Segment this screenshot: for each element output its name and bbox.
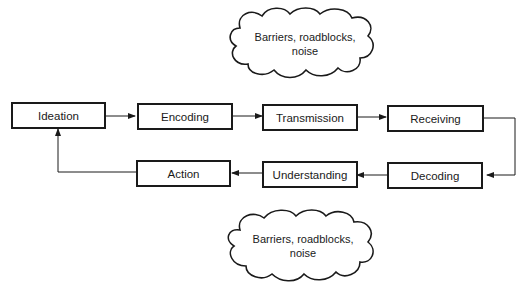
node-label: Transmission: [276, 112, 344, 124]
cloud-line-2: noise: [248, 246, 358, 260]
node-decoding: Decoding: [387, 162, 483, 189]
arrow-action-ideation: [58, 129, 136, 172]
node-label: Action: [168, 168, 200, 180]
node-label: Receiving: [410, 113, 461, 125]
node-encoding: Encoding: [137, 103, 233, 130]
node-transmission: Transmission: [262, 104, 358, 131]
cloud-line-2: noise: [250, 44, 360, 58]
node-label: Encoding: [161, 111, 209, 123]
node-action: Action: [136, 160, 231, 187]
node-label: Understanding: [273, 169, 348, 181]
node-receiving: Receiving: [387, 105, 484, 132]
cloud-text-top: Barriers, roadblocks, noise: [250, 30, 360, 58]
cloud-line-1: Barriers, roadblocks,: [250, 30, 360, 44]
node-label: Ideation: [38, 110, 79, 122]
arrow-receiving-decoding: [483, 118, 515, 175]
node-label: Decoding: [411, 170, 460, 182]
cloud-line-1: Barriers, roadblocks,: [248, 232, 358, 246]
node-understanding: Understanding: [262, 161, 358, 188]
cloud-text-bottom: Barriers, roadblocks, noise: [248, 232, 358, 260]
node-ideation: Ideation: [11, 102, 106, 129]
